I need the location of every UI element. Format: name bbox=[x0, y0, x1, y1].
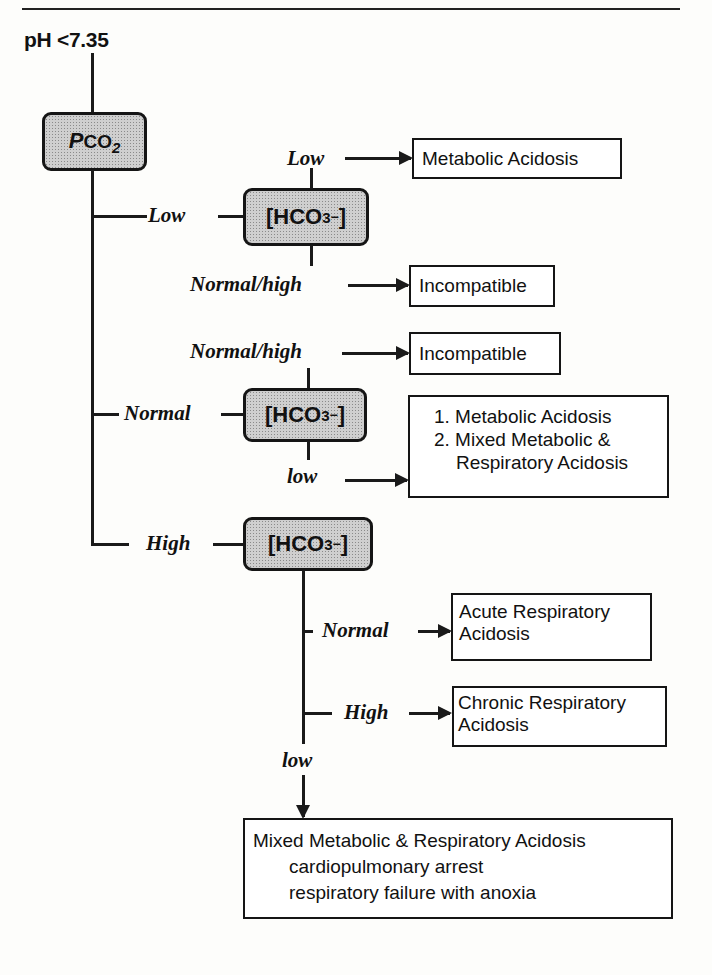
hco3-node-high-pco2: [HCO3−] bbox=[243, 517, 373, 571]
arrow-icon bbox=[409, 712, 450, 715]
outcome-label: low bbox=[282, 750, 312, 771]
arrow-icon bbox=[418, 630, 450, 633]
connector bbox=[213, 543, 244, 546]
connector bbox=[91, 543, 129, 546]
result-box-chronic-respiratory-acidosis: Chronic Respiratory Acidosis bbox=[452, 686, 667, 747]
outcome-label: Normal bbox=[322, 620, 389, 641]
pco2-trunk-line bbox=[91, 170, 94, 546]
outcome-label: Normal/high bbox=[190, 274, 302, 295]
outcome-label: Low bbox=[287, 148, 324, 169]
pco2-node: PCO2 bbox=[42, 112, 147, 171]
outcome-label: High bbox=[344, 702, 388, 723]
arrow-icon bbox=[345, 479, 407, 482]
result-box-acute-respiratory-acidosis: Acute Respiratory Acidosis bbox=[451, 593, 652, 661]
connector bbox=[218, 215, 244, 218]
hco3-node-normal-pco2: [HCO3−] bbox=[243, 388, 367, 442]
top-rule bbox=[22, 8, 680, 10]
connector bbox=[91, 53, 94, 113]
connector bbox=[221, 413, 244, 416]
connector bbox=[91, 413, 119, 416]
start-condition: pH <7.35 bbox=[24, 28, 109, 52]
result-box-metabolic-or-mixed: 1. Metabolic Acidosis 2. Mixed Metabolic… bbox=[408, 395, 669, 498]
connector bbox=[307, 441, 310, 460]
connector bbox=[307, 368, 310, 389]
connector bbox=[302, 630, 313, 633]
outcome-label: low bbox=[287, 466, 317, 487]
branch-normal-label: Normal bbox=[124, 403, 191, 424]
arrow-icon bbox=[342, 352, 408, 355]
result-box-incompatible: Incompatible bbox=[409, 265, 555, 307]
connector bbox=[302, 570, 305, 744]
connector bbox=[91, 215, 147, 218]
connector bbox=[302, 712, 332, 715]
arrow-icon bbox=[348, 284, 408, 287]
connector bbox=[310, 245, 313, 266]
result-box-incompatible: Incompatible bbox=[409, 332, 561, 375]
arrow-icon bbox=[345, 157, 411, 160]
arrow-down-icon bbox=[302, 775, 305, 817]
result-box-mixed-acidosis: Mixed Metabolic & Respiratory Acidosis c… bbox=[243, 818, 673, 919]
branch-low-label: Low bbox=[148, 205, 185, 226]
branch-high-label: High bbox=[146, 533, 190, 554]
connector bbox=[310, 168, 313, 189]
hco3-node-low-pco2: [HCO3−] bbox=[243, 188, 369, 246]
outcome-label: Normal/high bbox=[190, 341, 302, 362]
result-box-metabolic-acidosis: Metabolic Acidosis bbox=[412, 138, 622, 179]
